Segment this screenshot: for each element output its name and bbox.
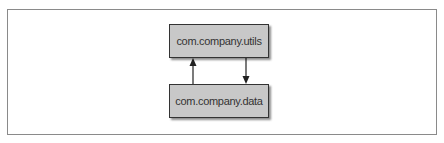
package-node-data: com.company.data: [169, 84, 269, 118]
arrow-data-to-utils: [190, 58, 197, 84]
package-node-utils: com.company.utils: [169, 24, 269, 58]
arrow-utils-to-data: [243, 58, 250, 84]
package-label: com.company.utils: [176, 35, 261, 47]
package-label: com.company.data: [175, 95, 262, 107]
dependency-arrows: [0, 0, 444, 143]
